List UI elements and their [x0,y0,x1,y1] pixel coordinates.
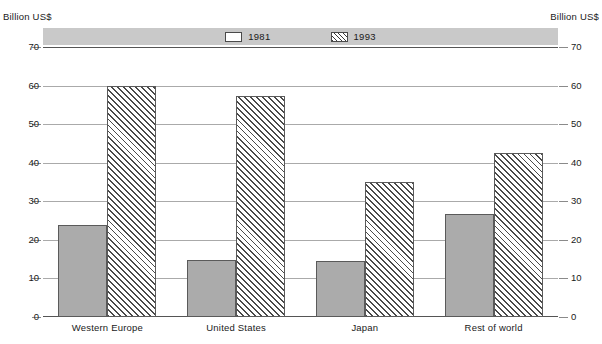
y-tick-label-left-30: 30 [28,196,39,206]
hatched-box-icon [331,32,348,42]
bar-group-rest-of-world [445,47,543,317]
y-tick-stub-right-20 [559,240,568,241]
category-label-japan: Japan [301,322,430,333]
y-tick-label-left-50: 50 [28,119,39,129]
y-tick-stub-right-10 [559,278,568,279]
y-tick-label-left-20: 20 [28,235,39,245]
solid-box-icon [225,32,242,42]
bar-rest-of-world-1993 [494,153,543,317]
bar-western-europe-1981 [58,225,107,317]
bar-japan-1993 [365,182,414,317]
y-axis-unit-label-left: Billion US$ [3,11,52,22]
bar-western-europe-1993 [107,86,156,317]
bar-japan-1981 [316,261,365,317]
chart-legend: 19811993 [43,28,558,45]
y-tick-label-right-50: 50 [571,119,582,129]
legend-label: 1993 [354,31,376,42]
y-tick-label-left-10: 10 [28,273,39,283]
legend-label: 1981 [248,31,270,42]
y-tick-stub-right-30 [559,201,568,202]
y-tick-label-left-0: 0 [34,312,39,322]
y-tick-stub-right-60 [559,86,568,87]
bar-group-japan [316,47,414,317]
y-tick-label-right-10: 10 [571,273,582,283]
y-tick-stub-right-50 [559,124,568,125]
bar-group-united-states [187,47,285,317]
y-tick-label-right-40: 40 [571,158,582,168]
y-tick-label-left-40: 40 [28,158,39,168]
y-tick-label-right-20: 20 [571,235,582,245]
bar-united-states-1993 [236,96,285,317]
bar-group-western-europe [58,47,156,317]
y-tick-label-right-0: 0 [571,312,576,322]
y-tick-label-left-60: 60 [28,81,39,91]
bar-united-states-1981 [187,260,236,317]
y-tick-label-left-70: 70 [28,42,39,52]
y-tick-stub-right-40 [559,163,568,164]
legend-item-1993: 1993 [331,31,376,42]
y-axis-unit-label-right: Billion US$ [550,11,599,22]
y-tick-stub-right-0 [559,317,568,318]
category-label-western-europe: Western Europe [43,322,172,333]
category-label-rest-of-world: Rest of world [429,322,558,333]
bar-rest-of-world-1981 [445,214,494,317]
y-tick-label-right-30: 30 [571,196,582,206]
plot-area [43,47,558,317]
bar-chart: Billion US$ Billion US$ 19811993 0010102… [0,0,602,344]
legend-item-1981: 1981 [225,31,270,42]
y-tick-stub-right-70 [559,47,568,48]
y-tick-label-right-60: 60 [571,81,582,91]
y-tick-label-right-70: 70 [571,42,582,52]
category-label-united-states: United States [172,322,301,333]
